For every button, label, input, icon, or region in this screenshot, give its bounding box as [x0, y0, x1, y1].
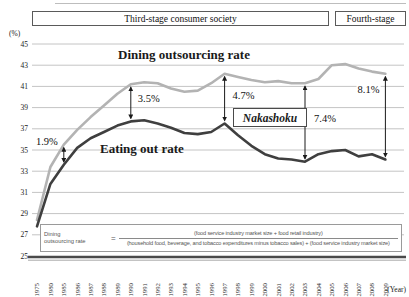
series-line-eating-out — [37, 120, 385, 226]
y-tick-label: 45 — [21, 40, 29, 49]
y-tick-label: 35 — [21, 146, 29, 155]
x-tick-label: 2004 — [315, 282, 322, 296]
annotation-label-1990: 3.5% — [138, 93, 160, 104]
x-tick-label: 1987 — [87, 282, 94, 296]
annotation-label-bg — [137, 93, 161, 105]
x-axis-unit: (Year) — [387, 285, 406, 294]
x-tick-label: 1998 — [234, 282, 241, 296]
x-tick-label: 2001 — [275, 283, 282, 297]
x-tick-label: 2009 — [382, 282, 389, 296]
x-tick-label: 1991 — [141, 283, 148, 297]
formula-numerator: (food service industry market size + foo… — [119, 230, 398, 238]
x-tick-label: 1988 — [100, 282, 107, 296]
formula-lhs-line2: outsourcing rate — [44, 238, 108, 245]
top-border-line — [55, 3, 406, 4]
y-tick-label: 31 — [21, 188, 29, 197]
annotation-label-1997: 4.7% — [233, 90, 255, 101]
x-tick-label: 1996 — [208, 282, 215, 296]
annotation-label-bg — [35, 135, 59, 147]
banner-third-stage-label: Third-stage consumer society — [124, 14, 236, 24]
y-tick-label: 25 — [21, 252, 29, 261]
series-line-dining-outsourcing — [37, 64, 385, 220]
x-tick-label: 1994 — [181, 282, 188, 296]
x-tick-label: 1985 — [60, 282, 67, 296]
y-tick-label: 33 — [21, 167, 29, 176]
y-tick-label: 29 — [21, 209, 29, 218]
annotation-label-2009: 8.1% — [358, 84, 380, 95]
x-tick-label: 2000 — [261, 282, 268, 296]
formula-fraction: (food service industry market size + foo… — [119, 230, 398, 247]
nakashoku-label: Nakashoku — [243, 112, 297, 124]
y-tick-label: 41 — [21, 82, 29, 91]
x-tick-label: 1997 — [221, 282, 228, 296]
x-tick-label: 2002 — [288, 282, 295, 296]
annotation-label-2003: 7.4% — [314, 113, 336, 124]
x-tick-label: 2005 — [328, 282, 335, 296]
x-tick-label: 2007 — [355, 282, 362, 296]
series-label-dining-outsourcing: Dining outsourcing rate — [118, 47, 250, 63]
annotation-label-bg — [357, 83, 381, 95]
annotation-label-1985: 1.9% — [36, 136, 58, 147]
nakashoku-callout-box: Nakashoku — [233, 108, 307, 127]
x-tick-label: 1992 — [154, 282, 161, 296]
x-tick-label: 1995 — [194, 282, 201, 296]
annotation-label-bg — [313, 113, 337, 125]
formula-lhs: Dining outsourcing rate — [44, 231, 108, 245]
chart-plot-layer: 1.9%3.5%4.7%7.4%8.1% — [0, 0, 409, 297]
chart-figure: Third-stage consumer society Fourth-stag… — [0, 0, 409, 297]
y-tick-label: 37 — [21, 124, 29, 133]
annotation-label-bg — [232, 89, 256, 101]
x-tick-label: 1990 — [127, 282, 134, 296]
series-label-eating-out: Eating out rate — [100, 141, 184, 157]
y-tick-label: 43 — [21, 61, 29, 70]
x-tick-label: 1986 — [74, 282, 81, 296]
banner-third-stage: Third-stage consumer society — [32, 11, 329, 26]
y-tick-label: 39 — [21, 103, 29, 112]
y-tick-label: 27 — [21, 230, 29, 239]
x-tick-label: 1980 — [47, 282, 54, 296]
x-tick-label: 2006 — [342, 282, 349, 296]
formula-denominator: (household food, beverage, and tobacco e… — [119, 238, 398, 247]
x-tick-label: 1993 — [167, 282, 174, 296]
banner-fourth-stage: Fourth-stage — [335, 11, 406, 26]
formula-lhs-line1: Dining — [44, 231, 108, 238]
x-tick-label: 1975 — [33, 282, 40, 296]
chart-grid-layer: 4543413937353331292725197519801985198619… — [0, 0, 409, 297]
y-axis-unit: (%) — [9, 29, 21, 38]
x-tick-label: 2003 — [301, 282, 308, 296]
x-tick-label: 1999 — [248, 282, 255, 296]
x-tick-label: 1989 — [114, 282, 121, 296]
formula-equals: = — [111, 234, 116, 243]
x-tick-label: 2008 — [368, 282, 375, 296]
banner-fourth-stage-label: Fourth-stage — [346, 14, 394, 24]
formula-box: Dining outsourcing rate = (food service … — [40, 224, 402, 252]
